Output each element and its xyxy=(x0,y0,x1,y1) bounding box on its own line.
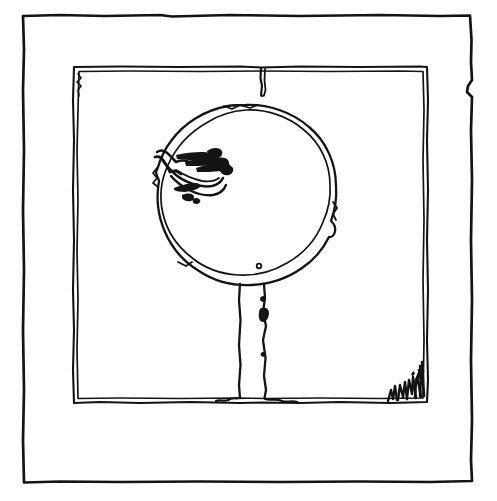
artboard: Lollipop tree line drawing xyxy=(0,0,497,501)
line-drawing xyxy=(0,0,497,501)
